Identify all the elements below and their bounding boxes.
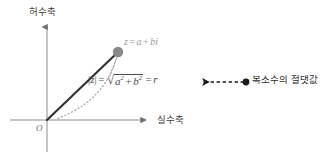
origin-label: O <box>36 124 43 133</box>
formula-plus-sign: + <box>124 75 133 87</box>
point-z-marker <box>113 47 123 57</box>
square-root-group: √ a2+b2 <box>107 73 143 87</box>
imaginary-axis-label: 허수축 <box>29 7 56 17</box>
real-axis-label: 실수축 <box>157 115 184 125</box>
point-z-label: z = a + b i <box>124 37 158 47</box>
radical-sign: √ <box>107 73 114 87</box>
complex-plane-diagram: 허수축 실수축 O z = a + b i | z | = √ a2+b2 = <box>0 0 331 165</box>
radicand: a2+b2 <box>114 74 143 87</box>
point-equals-sign: = <box>128 37 137 47</box>
point-plus-sign: + <box>142 37 151 47</box>
point-imaginary-unit: i <box>155 37 158 47</box>
formula-equals-second: = <box>144 74 153 85</box>
annotation-label: 복소수의 절댓값 <box>252 75 318 85</box>
modulus-formula: | z | = √ a2+b2 = r <box>88 73 158 87</box>
exponent-b: 2 <box>139 74 142 81</box>
formula-equals-first: = <box>97 74 106 85</box>
result-r: r <box>153 74 157 85</box>
annotation-dot <box>243 79 250 86</box>
